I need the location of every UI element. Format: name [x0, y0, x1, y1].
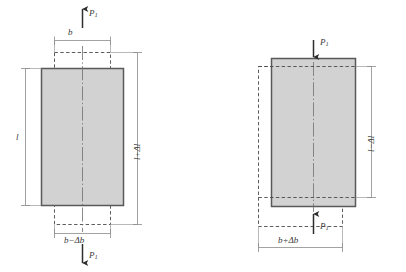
- tension-width-deformed-label: b−Δb: [64, 236, 84, 245]
- tension-dim-length-original: [21, 69, 30, 206]
- tension-dim-length-deformed: [133, 53, 142, 225]
- tension-case-group: [21, 9, 142, 263]
- diagram-vector-layer: [0, 0, 406, 272]
- tension-load-label-top: P1: [89, 9, 98, 19]
- tension-width-original-label: b: [68, 28, 73, 37]
- tension-dim-width-original: [55, 37, 111, 46]
- diagram-canvas: P1 b b−Δb l l+Δl P1 P1 l−Δl P1 b+Δb: [0, 0, 406, 272]
- compression-length-label: l−Δl: [367, 136, 376, 152]
- compression-width-label: b+Δb: [278, 236, 298, 245]
- compression-dim-length: [367, 67, 376, 198]
- tension-length-deformed-label: l+Δl: [133, 144, 142, 160]
- compression-load-label-bottom: P1: [320, 222, 329, 232]
- compression-case-group: [259, 40, 377, 252]
- tension-load-label-bottom: P1: [89, 251, 98, 261]
- tension-length-original-label: l: [16, 133, 19, 142]
- compression-dim-width: [259, 243, 343, 252]
- compression-load-label-top: P1: [320, 38, 329, 48]
